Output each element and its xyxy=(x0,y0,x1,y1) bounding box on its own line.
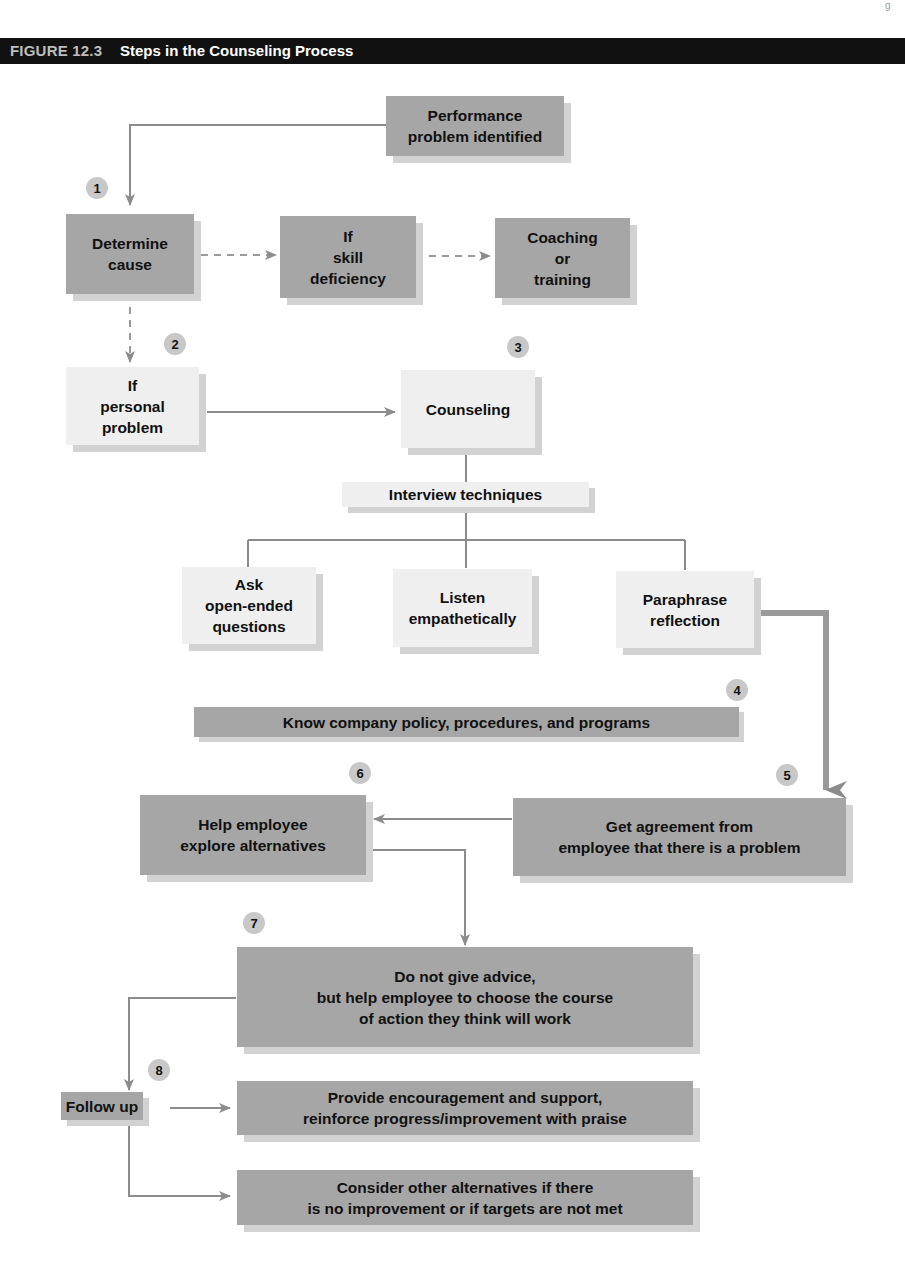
step-badge-2: 2 xyxy=(164,333,186,355)
page-corner-mark: g xyxy=(885,0,891,11)
step-badge-7: 7 xyxy=(243,912,265,934)
node-no-advice: Do not give advice, but help employee to… xyxy=(237,947,693,1047)
figure-title-bar: FIGURE 12.3 Steps in the Counseling Proc… xyxy=(0,38,905,64)
node-get-agreement: Get agreement from employee that there i… xyxy=(513,798,846,876)
node-determine-cause: Determine cause xyxy=(66,214,194,294)
step-badge-5: 5 xyxy=(776,764,798,786)
connector-performance-to-determine xyxy=(130,125,386,205)
node-coaching-training: Coaching or training xyxy=(495,218,630,298)
step-badge-4: 4 xyxy=(726,679,748,701)
connector-follow-up-to-alternatives xyxy=(129,1126,230,1196)
connector-no-advice-to-follow-up xyxy=(129,998,236,1090)
step-badge-3: 3 xyxy=(507,336,529,358)
node-know-policy: Know company policy, procedures, and pro… xyxy=(194,707,739,737)
connector-explore-to-no-advice xyxy=(369,850,465,945)
node-follow-up: Follow up xyxy=(61,1092,143,1120)
node-interview-techniques: Interview techniques xyxy=(342,482,589,507)
step-badge-8: 8 xyxy=(148,1059,170,1081)
node-performance-problem: Performance problem identified xyxy=(386,96,564,156)
node-ask-questions: Ask open-ended questions xyxy=(182,567,316,644)
node-personal-problem: If personal problem xyxy=(66,367,199,445)
node-counseling: Counseling xyxy=(401,370,535,448)
node-other-alternatives: Consider other alternatives if there is … xyxy=(237,1170,693,1225)
step-badge-1: 1 xyxy=(86,177,108,199)
connector-interview-branches xyxy=(248,508,685,570)
node-paraphrase: Paraphrase reflection xyxy=(616,571,754,648)
node-listen: Listen empathetically xyxy=(393,569,532,647)
node-skill-deficiency: If skill deficiency xyxy=(280,216,416,298)
figure-title: Steps in the Counseling Process xyxy=(120,42,353,59)
node-encouragement: Provide encouragement and support, reinf… xyxy=(237,1081,693,1135)
node-explore-alternatives: Help employee explore alternatives xyxy=(140,795,366,875)
figure-number: FIGURE 12.3 xyxy=(10,42,102,59)
step-badge-6: 6 xyxy=(349,762,371,784)
